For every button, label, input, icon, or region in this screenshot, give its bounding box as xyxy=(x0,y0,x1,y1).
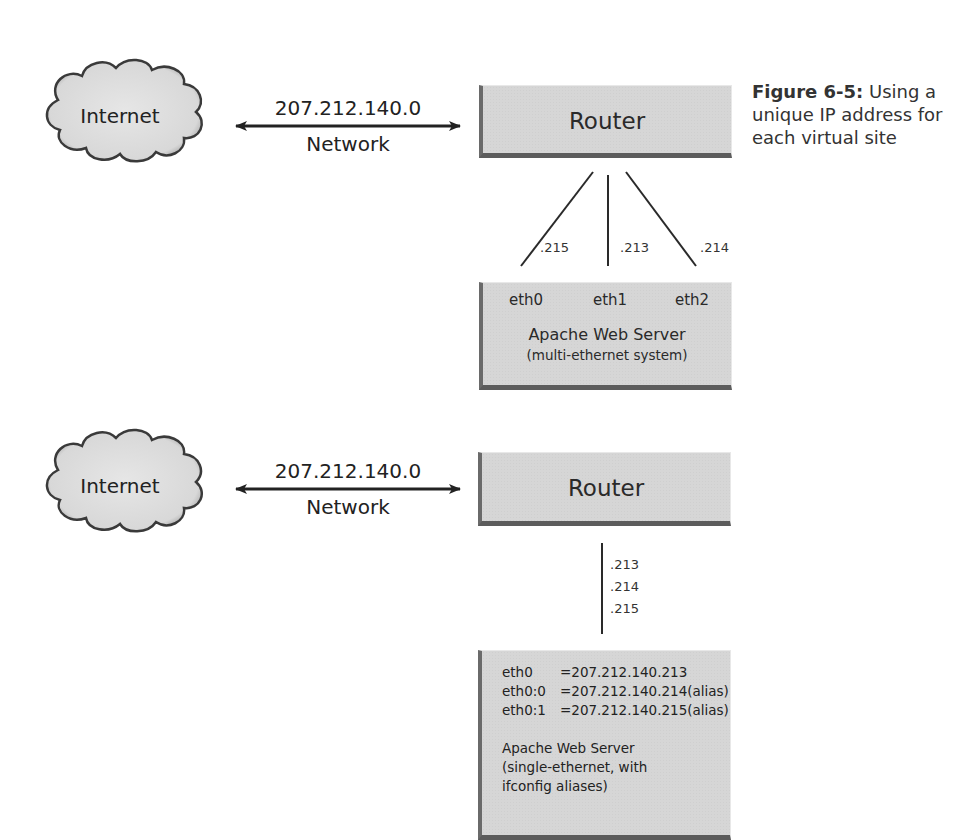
router-label: Router xyxy=(482,475,730,501)
alias-list: eth0=207.212.140.213 eth0:0=207.212.140.… xyxy=(502,663,729,796)
server-subtitle: (multi-ethernet system) xyxy=(483,347,731,363)
link-label: .214 xyxy=(610,579,639,594)
interface-label: eth0 xyxy=(509,291,543,309)
server-title: Apache Web Server xyxy=(483,325,731,344)
router-label: Router xyxy=(483,108,731,134)
internet-label: Internet xyxy=(60,474,180,498)
network-label: Network xyxy=(248,132,448,156)
link-label: .213 xyxy=(610,557,639,572)
network-address: 207.212.140.0 xyxy=(248,459,448,483)
server-subtitle: ifconfig aliases) xyxy=(502,777,729,796)
alias-row: eth0:1=207.212.140.215(alias) xyxy=(502,701,729,720)
link-label: .213 xyxy=(620,240,649,255)
alias-row: eth0:0=207.212.140.214(alias) xyxy=(502,682,729,701)
router-box: Router xyxy=(479,85,732,158)
internet-label: Internet xyxy=(60,104,180,128)
network-label: Network xyxy=(248,495,448,519)
network-address: 207.212.140.0 xyxy=(248,96,448,120)
interface-label: eth1 xyxy=(593,291,627,309)
link-label: .215 xyxy=(610,601,639,616)
alias-row: eth0=207.212.140.213 xyxy=(502,663,729,682)
interface-label: eth2 xyxy=(675,291,709,309)
server-subtitle: (single-ethernet, with xyxy=(502,758,729,777)
figure-number: Figure 6-5: xyxy=(752,81,863,102)
link-label: .214 xyxy=(700,240,729,255)
figure-caption: Figure 6-5: Using a unique IP address fo… xyxy=(752,80,980,149)
server-box: eth0=207.212.140.213 eth0:0=207.212.140.… xyxy=(478,650,731,840)
link-label: .215 xyxy=(540,240,569,255)
server-title: Apache Web Server xyxy=(502,739,729,758)
server-box: eth0 eth1 eth2 Apache Web Server (multi-… xyxy=(479,282,732,390)
router-box: Router xyxy=(478,452,731,526)
